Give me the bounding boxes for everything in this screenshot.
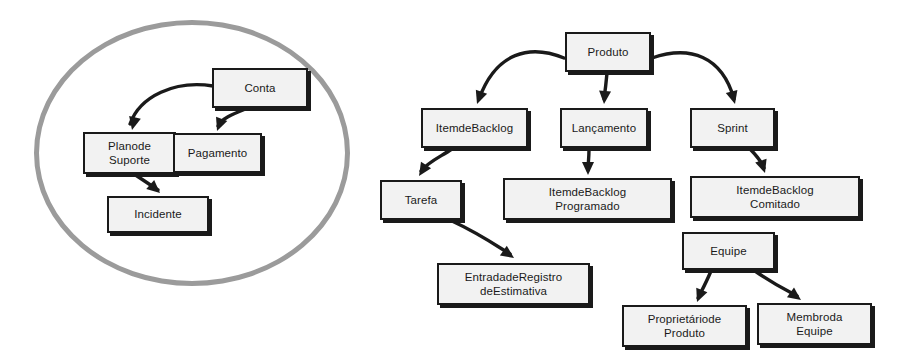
arrowhead-item-de-backlog-to-tarefa	[414, 162, 431, 179]
edge-item-de-backlog-to-tarefa	[421, 149, 452, 171]
node-proprietario-produto[interactable]: Proprietáriode Produto	[622, 305, 747, 347]
node-label: EntradadeRegistro deEstimativa	[465, 270, 563, 298]
arrowhead-lancamento-to-item-backlog-programado	[582, 162, 594, 175]
node-membro-da-equipe[interactable]: Membroda Equipe	[757, 303, 872, 345]
node-item-backlog-comitado[interactable]: ItemdeBacklog Comitado	[690, 176, 860, 218]
diagram-canvas: ContaPlanode SuportePagamentoIncidentePr…	[0, 0, 911, 364]
node-plano-de-suporte[interactable]: Planode Suporte	[83, 132, 176, 174]
node-label: Lançamento	[572, 121, 636, 135]
edge-lancamento-to-item-backlog-programado	[588, 149, 589, 170]
node-label: Membroda Equipe	[787, 310, 843, 338]
node-item-backlog-programado[interactable]: ItemdeBacklog Programado	[503, 178, 672, 220]
node-label: Pagamento	[188, 146, 248, 160]
node-label: ItemdeBacklog Comitado	[736, 183, 813, 211]
node-tarefa[interactable]: Tarefa	[380, 180, 462, 220]
edge-sprint-to-item-backlog-comitado	[750, 149, 764, 168]
arrowhead-equipe-to-proprietario-produto	[691, 288, 707, 305]
arrowhead-produto-to-lancamento	[598, 91, 611, 105]
node-label: Incidente	[134, 207, 182, 221]
node-lancamento[interactable]: Lançamento	[560, 108, 648, 148]
edge-produto-to-lancamento	[604, 73, 607, 99]
node-entrada-registro-estimativa[interactable]: EntradadeRegistro deEstimativa	[437, 263, 590, 305]
node-pagamento[interactable]: Pagamento	[173, 133, 262, 173]
arrowhead-tarefa-to-entrada-registro	[500, 246, 518, 263]
edge-produto-to-sprint	[652, 53, 734, 99]
node-label: Conta	[244, 81, 275, 95]
node-item-de-backlog[interactable]: ItemdeBacklog	[421, 108, 528, 148]
node-label: Proprietáriode Produto	[648, 312, 722, 340]
node-label: ItemdeBacklog Programado	[549, 185, 626, 213]
node-equipe[interactable]: Equipe	[682, 232, 775, 270]
node-label: Tarefa	[405, 193, 438, 207]
node-produto[interactable]: Produto	[565, 32, 651, 72]
node-sprint[interactable]: Sprint	[690, 108, 775, 148]
node-conta[interactable]: Conta	[212, 68, 308, 108]
node-label: Planode Suporte	[108, 139, 151, 167]
node-label: Equipe	[710, 244, 746, 258]
edge-produto-to-item-de-backlog	[479, 52, 564, 99]
arrowhead-produto-to-sprint	[726, 90, 741, 106]
edge-equipe-to-membro-da-equipe	[755, 271, 797, 296]
node-label: ItemdeBacklog	[436, 121, 513, 135]
edge-equipe-to-proprietario-produto	[698, 271, 711, 298]
arrowhead-sprint-to-item-backlog-comitado	[755, 159, 770, 175]
arrowhead-produto-to-item-de-backlog	[471, 90, 487, 106]
edge-tarefa-to-entrada-registro	[452, 221, 510, 254]
node-label: Produto	[588, 45, 629, 59]
node-label: Sprint	[717, 121, 748, 135]
node-incidente[interactable]: Incidente	[107, 196, 209, 233]
